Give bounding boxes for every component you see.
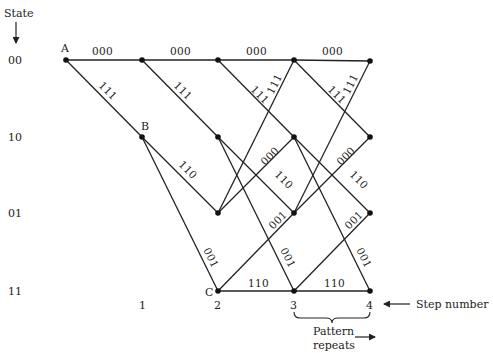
edge-label: 110 <box>177 158 200 181</box>
node-00-step0 <box>63 57 69 63</box>
node-11-step2 <box>215 288 221 294</box>
edge-00-10 <box>66 60 142 137</box>
step-number-3: 3 <box>290 299 297 312</box>
state-label-01: 01 <box>8 207 22 220</box>
node-00-step4 <box>367 58 373 64</box>
node-01-step2 <box>215 210 221 216</box>
edge-label: 000 <box>334 144 357 167</box>
node-10-step4 <box>367 134 373 140</box>
edge-10-01 <box>142 137 218 213</box>
edge-label: 001 <box>342 208 365 231</box>
edge-label: 111 <box>264 72 284 96</box>
pattern-repeats-line2: repeats <box>313 339 355 352</box>
node-10-step1 <box>139 134 145 140</box>
node-label-c: C <box>205 286 213 299</box>
node-01-step3 <box>291 210 297 216</box>
node-10-step3 <box>291 134 297 140</box>
edge-label: 110 <box>248 277 269 289</box>
edge-label: 110 <box>348 168 371 191</box>
state-axis-label: State <box>4 7 33 20</box>
node-11-step4 <box>367 288 373 294</box>
edge-00-10 <box>142 60 218 137</box>
node-10-step2 <box>215 134 221 140</box>
edge-label: 110 <box>324 277 345 289</box>
node-11-step3 <box>291 288 297 294</box>
node-00-step3 <box>291 57 297 63</box>
edge-label: 111 <box>97 79 120 102</box>
node-label-b: B <box>141 120 149 133</box>
edge-label: 001 <box>266 208 289 231</box>
edge-label: 000 <box>246 45 267 57</box>
edge-label: 000 <box>322 45 343 57</box>
state-label-10: 10 <box>8 131 22 144</box>
pattern-brace <box>294 312 370 323</box>
pattern-repeats-line1: Pattern <box>313 325 354 338</box>
state-label-00: 00 <box>8 54 22 67</box>
edge-label: 111 <box>340 72 360 96</box>
trellis-diagram: State 00 10 01 11 <box>0 0 493 356</box>
step-number-1: 1 <box>139 299 146 312</box>
edge-00-10 <box>294 60 370 137</box>
edge-label: 110 <box>273 168 296 191</box>
edge-label: 001 <box>201 245 221 269</box>
node-01-step4 <box>367 210 373 216</box>
node-00-step2 <box>215 57 221 63</box>
node-label-a: A <box>60 42 70 55</box>
edge-label: 000 <box>92 45 113 57</box>
step-number-label: Step number <box>416 298 489 311</box>
edge-label: 111 <box>172 79 195 102</box>
edge-label: 000 <box>170 45 191 57</box>
edge-label: 000 <box>258 144 281 167</box>
edge-10-11 <box>142 137 218 291</box>
edge-00-00 <box>294 60 370 61</box>
step-number-4: 4 <box>366 299 373 312</box>
state-label-11: 11 <box>8 285 22 298</box>
step-number-2: 2 <box>214 299 221 312</box>
node-00-step1 <box>139 57 145 63</box>
